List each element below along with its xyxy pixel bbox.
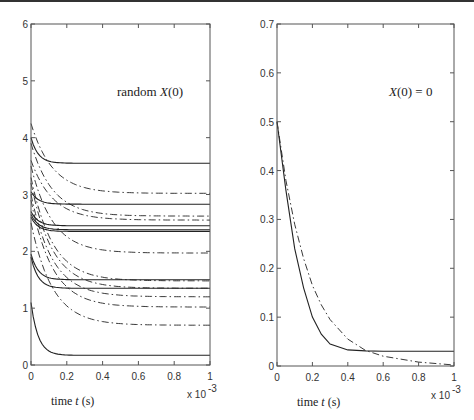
y-tick-label: 0.7 xyxy=(260,19,274,30)
x-tick-label: 0.6 xyxy=(376,372,390,383)
x-tick-label: 0.4 xyxy=(341,372,355,383)
x-multiplier-label: x 10 xyxy=(431,390,450,401)
series-solid-4 xyxy=(31,214,210,229)
x-tick-label: 0.2 xyxy=(305,372,319,383)
y-tick-label: 0.3 xyxy=(260,214,274,225)
series-dashdot-3 xyxy=(31,160,210,220)
x-tick-label: 0.8 xyxy=(167,371,181,382)
left-axes: 00.20.40.60.810123456x 10-3time t (s)ran… xyxy=(22,19,217,408)
right-curves xyxy=(277,122,454,365)
y-tick-label: 1 xyxy=(22,303,28,314)
series-solid-8 xyxy=(31,303,210,356)
x-axis-label: time t (s) xyxy=(297,395,340,409)
right-axes: 00.20.40.60.8100.10.20.30.40.50.60.7x 10… xyxy=(260,19,461,409)
y-tick-label: 0 xyxy=(22,360,28,371)
y-tick-label: 5 xyxy=(22,76,28,87)
x-tick-label: 1 xyxy=(451,372,457,383)
series-solid xyxy=(277,122,454,352)
series-dashdot-6 xyxy=(31,183,210,288)
x-multiplier-exponent: -3 xyxy=(452,384,461,395)
series-solid-1 xyxy=(31,138,210,164)
series-solid-2 xyxy=(31,192,210,205)
series-dashdot-1 xyxy=(31,124,210,194)
right-axes-box xyxy=(277,24,454,366)
y-tick-label: 0.6 xyxy=(260,68,274,79)
x-tick-label: 0.6 xyxy=(131,371,145,382)
x-tick-label: 0 xyxy=(28,371,34,382)
x-tick-label: 0 xyxy=(274,372,280,383)
y-tick-label: 0.2 xyxy=(260,263,274,274)
annotation-random-x0: random X(0) xyxy=(117,84,183,99)
series-dashdot-9 xyxy=(31,223,210,325)
annotation-x0-zero: X(0) = 0 xyxy=(388,84,432,99)
y-tick-label: 0.1 xyxy=(260,312,274,323)
series-dashdot xyxy=(277,122,454,365)
y-tick-label: 0.5 xyxy=(260,117,274,128)
figure: 00.20.40.60.810123456x 10-3time t (s)ran… xyxy=(0,0,474,420)
left-curves xyxy=(31,124,210,356)
series-solid-7 xyxy=(31,257,210,288)
series-dashdot-7 xyxy=(31,195,210,297)
x-axis-label: time t (s) xyxy=(51,394,94,408)
y-tick-label: 4 xyxy=(22,133,28,144)
y-tick-label: 0 xyxy=(268,361,274,372)
y-tick-label: 6 xyxy=(22,19,28,30)
y-tick-label: 3 xyxy=(22,190,28,201)
x-tick-label: 0.4 xyxy=(96,371,110,382)
y-tick-label: 2 xyxy=(22,246,28,257)
y-tick-label: 0.4 xyxy=(260,166,274,177)
left-axes-box xyxy=(31,24,210,365)
series-dashdot-2 xyxy=(31,143,210,216)
series-dashdot-4 xyxy=(31,166,210,253)
x-multiplier-label: x 10 xyxy=(187,389,206,400)
x-tick-label: 0.8 xyxy=(412,372,426,383)
x-tick-label: 1 xyxy=(207,371,213,382)
x-tick-label: 0.2 xyxy=(60,371,74,382)
x-multiplier-exponent: -3 xyxy=(208,383,217,394)
